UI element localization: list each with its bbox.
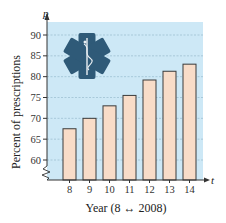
bar-chart: 60657075808590 891011121314 p t Percent … bbox=[0, 0, 226, 223]
x-tick-label: 11 bbox=[124, 184, 134, 195]
x-tick-label: 13 bbox=[164, 184, 175, 195]
bar-13 bbox=[163, 71, 176, 180]
y-tick-label: 80 bbox=[31, 71, 42, 82]
y-axis-title: Percent of prescriptions bbox=[9, 55, 23, 169]
x-axis-ticks: 891011121314 bbox=[67, 180, 196, 195]
star-of-life-icon bbox=[63, 33, 111, 79]
bar-8 bbox=[63, 129, 76, 180]
y-tick-label: 75 bbox=[31, 92, 42, 103]
y-tick-label: 60 bbox=[31, 155, 42, 166]
x-tick-label: 14 bbox=[184, 184, 195, 195]
y-tick-label: 90 bbox=[31, 30, 42, 41]
x-tick-label: 9 bbox=[87, 184, 92, 195]
bar-9 bbox=[83, 118, 96, 180]
bar-10 bbox=[103, 106, 116, 180]
bar-14 bbox=[183, 64, 196, 180]
x-axis-variable: t bbox=[211, 174, 215, 186]
x-tick-label: 12 bbox=[144, 184, 155, 195]
bar-11 bbox=[123, 95, 136, 180]
x-tick-label: 10 bbox=[104, 184, 115, 195]
y-tick-label: 70 bbox=[31, 113, 42, 124]
x-axis-title: Year (8 ↔ 2008) bbox=[85, 201, 166, 215]
bar-12 bbox=[143, 80, 156, 180]
y-axis-variable: p bbox=[42, 7, 49, 19]
x-tick-label: 8 bbox=[67, 184, 72, 195]
y-axis-ticks: 60657075808590 bbox=[31, 30, 48, 166]
y-tick-label: 65 bbox=[31, 134, 42, 145]
y-tick-label: 85 bbox=[31, 50, 42, 61]
